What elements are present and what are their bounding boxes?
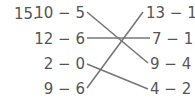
left-expression-2: 12 − 6 [10,30,85,48]
left-expression-3: 2 − 0 [10,55,85,73]
right-expression-2: 7 − 1 [152,30,193,48]
right-expression-3: 9 − 4 [150,55,191,73]
right-expression-1: 13 − 10 [146,4,195,22]
match-line-9-6-to-13-10 [87,12,143,88]
right-expression-4: 4 − 2 [150,80,191,98]
left-expression-4: 9 − 6 [10,80,85,98]
left-expression-1: 10 − 5 [10,4,85,22]
